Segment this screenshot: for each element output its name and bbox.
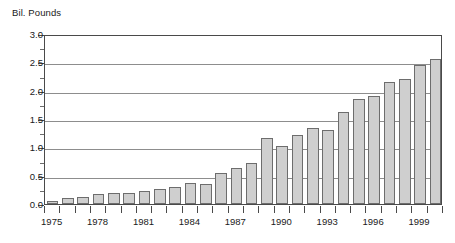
bar[interactable] [169,187,181,204]
bar-slot [275,36,290,204]
bar-slot [305,36,320,204]
y-tick-label-1.5: 1.5 [11,115,43,125]
bar-slot [122,36,137,204]
x-tick-label-1993: 1993 [307,216,347,227]
bar-slot [259,36,274,204]
x-tick [105,206,106,213]
x-tick [44,206,45,213]
x-tick [320,206,321,213]
bar[interactable] [108,193,120,204]
bar-slot [60,36,75,204]
x-tick [212,206,213,213]
bar[interactable] [399,79,411,204]
x-tick [381,206,382,213]
bar[interactable] [47,201,59,204]
x-tick-label-1978: 1978 [78,216,118,227]
x-tick [121,206,122,213]
y-tick-label-0.0: 0.0 [11,200,43,210]
bar[interactable] [215,173,227,204]
bar[interactable] [139,191,151,204]
x-tick [59,206,60,213]
bar-slot [290,36,305,204]
x-tick-label-1987: 1987 [215,216,255,227]
bar[interactable] [261,138,273,204]
bar-slot [152,36,167,204]
x-tick [411,206,412,213]
y-tick-label-2.0: 2.0 [11,87,43,97]
bar-slot [321,36,336,204]
bar-slot [76,36,91,204]
bar[interactable] [414,65,426,204]
x-tick [151,206,152,213]
x-tick [166,206,167,213]
x-tick-label-1981: 1981 [124,216,164,227]
bar[interactable] [292,135,304,204]
x-tick [442,206,443,213]
bar-chart-figure: Bil. Pounds 0.00.51.01.52.02.53.0 197519… [0,0,455,243]
x-tick [427,206,428,213]
plot-area [44,35,442,205]
bar-slot [45,36,60,204]
bar[interactable] [384,82,396,204]
x-tick [258,206,259,213]
x-tick [228,206,229,213]
bar[interactable] [77,197,89,204]
x-tick [350,206,351,213]
bar-slot [91,36,106,204]
bar-slot [244,36,259,204]
x-tick-label-1996: 1996 [353,216,393,227]
bar-slot [397,36,412,204]
x-tick-label-1975: 1975 [32,216,72,227]
x-tick-label-1990: 1990 [261,216,301,227]
bar[interactable] [338,112,350,204]
x-tick [182,206,183,213]
bar[interactable] [368,96,380,204]
x-tick [136,206,137,213]
bar-slot [336,36,351,204]
x-tick [365,206,366,213]
bar[interactable] [154,189,166,204]
x-tick [396,206,397,213]
y-tick-label-0.5: 0.5 [11,172,43,182]
bar-slot [382,36,397,204]
x-tick [304,206,305,213]
bar[interactable] [430,59,442,204]
x-tick-label-1984: 1984 [169,216,209,227]
bar-slot [183,36,198,204]
bar-slot [167,36,182,204]
bar-slot [366,36,381,204]
bar[interactable] [185,183,197,204]
x-tick [274,206,275,213]
bar-slot [198,36,213,204]
bar[interactable] [246,163,258,204]
x-tick [90,206,91,213]
bar-slot [213,36,228,204]
bar[interactable] [200,184,212,204]
bar-slot [351,36,366,204]
bar[interactable] [231,168,243,204]
x-tick [75,206,76,213]
bar[interactable] [322,130,334,204]
bar[interactable] [62,198,74,204]
bar-slot [412,36,427,204]
bar[interactable] [307,128,319,205]
y-tick-label-3.0: 3.0 [11,30,43,40]
x-tick-label-1999: 1999 [399,216,439,227]
bar[interactable] [276,146,288,204]
bar-slot [106,36,121,204]
bar[interactable] [93,194,105,204]
bar-slot [229,36,244,204]
y-axis-title: Bil. Pounds [12,7,61,18]
x-tick [289,206,290,213]
bar[interactable] [123,193,135,204]
bar[interactable] [353,99,365,204]
y-tick-label-2.5: 2.5 [11,58,43,68]
bars-layer [45,36,441,204]
x-tick [197,206,198,213]
x-tick [243,206,244,213]
bar-slot [428,36,443,204]
y-tick-label-1.0: 1.0 [11,143,43,153]
x-tick [335,206,336,213]
bar-slot [137,36,152,204]
